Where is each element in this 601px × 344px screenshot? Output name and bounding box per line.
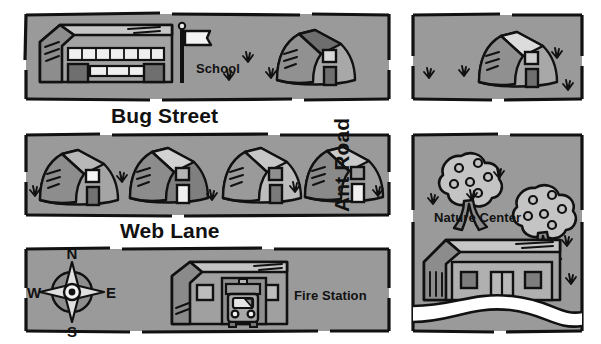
fire-truck-icon — [226, 279, 260, 327]
nature-center-building — [424, 240, 560, 300]
compass-east-label: E — [106, 284, 116, 301]
block-bottom-right — [413, 134, 582, 332]
block-middle-left — [26, 134, 389, 216]
block-top-right — [413, 14, 582, 100]
compass-west-label: W — [27, 284, 42, 301]
compass-south-label: S — [67, 323, 77, 340]
block-top-left — [25, 13, 389, 100]
school-building — [40, 25, 172, 82]
neighborhood-map: N S W E — [0, 0, 601, 344]
block-bottom-left: N S W E — [26, 245, 389, 340]
fire-station-building — [172, 262, 287, 327]
compass-north-label: N — [67, 245, 78, 262]
